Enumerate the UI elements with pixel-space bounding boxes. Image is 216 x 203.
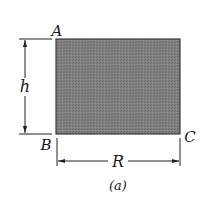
width-label: R (111, 152, 124, 171)
figure-caption: (a) (109, 178, 127, 193)
corner-label-c: C (184, 128, 196, 146)
corner-label-b: B (39, 136, 51, 154)
height-label: h (20, 77, 30, 96)
corner-label-a: A (50, 22, 63, 40)
shaded-rectangle (56, 39, 180, 134)
width-dimension: R (57, 138, 180, 171)
height-dimension: h (19, 39, 52, 134)
diagram-canvas: h R A B C (a) (0, 0, 216, 203)
